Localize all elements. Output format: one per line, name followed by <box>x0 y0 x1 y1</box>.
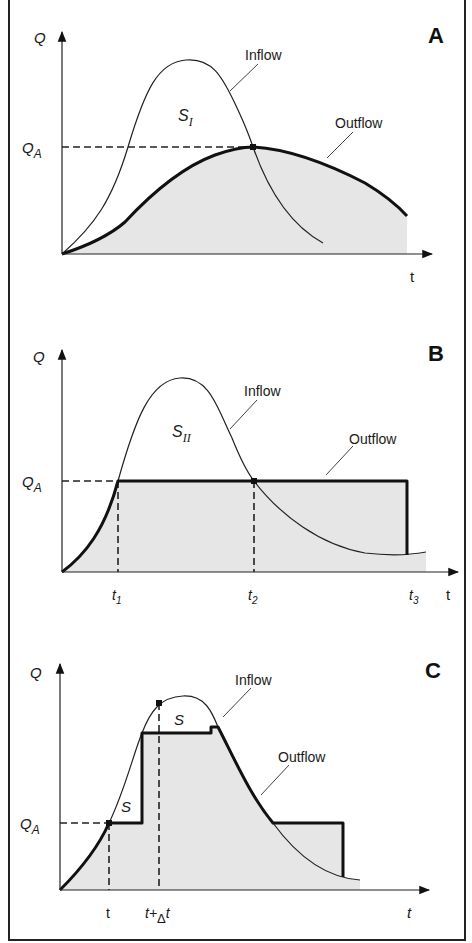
outflow-area-a <box>62 147 407 254</box>
tick-label-t2: t2 <box>248 587 258 606</box>
qa-label-a: QA <box>22 139 42 161</box>
x-axis-label-b: t <box>446 586 451 603</box>
inflow-leader-a <box>230 64 258 91</box>
flood-routing-figure: Q QA SI Inflow Outflow t A Q QA SII Infl… <box>0 0 472 943</box>
tick-label-t1: t1 <box>112 587 121 606</box>
intersection-marker-a <box>250 144 256 150</box>
intersection-marker-b <box>251 478 257 484</box>
y-axis-label-c: Q <box>30 664 42 681</box>
qa-label-c: QA <box>20 815 40 837</box>
outflow-leader-c <box>261 765 289 795</box>
tick-label-t: t <box>106 905 110 921</box>
outflow-leader-a <box>327 132 353 158</box>
outflow-label-c: Outflow <box>278 749 326 765</box>
y-axis-label-b: Q <box>33 348 45 365</box>
x-axis-label-c: t <box>407 904 412 921</box>
inflow-leader-b <box>230 400 257 429</box>
inflow-label-c: Inflow <box>235 672 272 688</box>
point-marker-t <box>106 820 112 826</box>
panel-letter-b: B <box>428 341 444 366</box>
panel-a: Q QA SI Inflow Outflow t A <box>22 23 444 285</box>
outflow-area-b <box>62 481 426 572</box>
inflow-label-a: Inflow <box>245 47 282 63</box>
tick-label-t-plus-dt: t+Δt <box>145 905 171 926</box>
outflow-label-b: Outflow <box>349 431 397 447</box>
storage-label-a: SI <box>178 107 194 129</box>
outflow-leader-b <box>326 446 353 475</box>
storage-label-c-lower: S <box>121 798 131 815</box>
panel-letter-c: C <box>425 658 441 683</box>
x-axis-label-a: t <box>410 268 415 285</box>
y-axis-label-a: Q <box>34 29 46 46</box>
outflow-label-a: Outflow <box>335 115 383 131</box>
panel-c: Q QA S S Inflow Outflow t t+Δt t C <box>20 658 441 926</box>
qa-label-b: QA <box>22 473 42 495</box>
point-marker-t-plus-dt <box>156 700 162 706</box>
inflow-label-b: Inflow <box>244 383 281 399</box>
storage-label-c-upper: S <box>174 711 184 728</box>
tick-label-t3: t3 <box>409 587 419 606</box>
storage-label-b: SII <box>172 423 192 445</box>
panel-letter-a: A <box>428 23 444 48</box>
inflow-leader-c <box>223 688 251 717</box>
panel-b: Q QA SII Inflow Outflow t1 t2 t3 t B <box>22 341 458 606</box>
